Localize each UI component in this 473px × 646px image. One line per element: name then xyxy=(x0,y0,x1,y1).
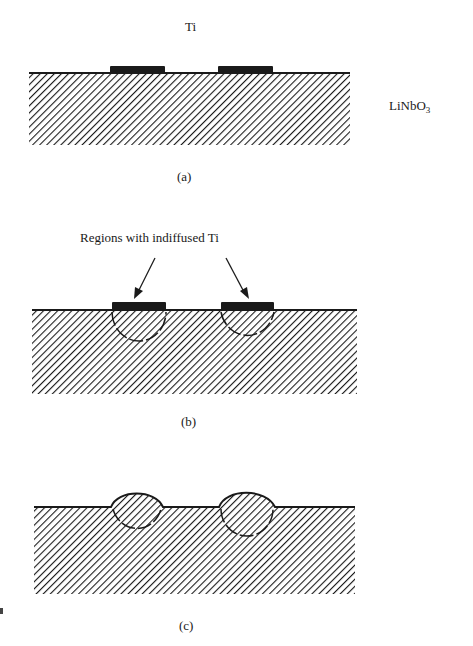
arrow-right xyxy=(226,258,249,299)
panel-b xyxy=(32,258,357,394)
substrate-a xyxy=(29,73,350,145)
substrate-subscript: 3 xyxy=(426,105,431,115)
bulge-c-right xyxy=(219,493,275,507)
substrate-c xyxy=(34,507,355,594)
panel-a xyxy=(29,66,350,145)
arrow-left xyxy=(134,258,155,299)
annotation-indiffused: Regions with indiffused Ti xyxy=(80,230,219,246)
ti-strip-a-right xyxy=(218,66,273,73)
ti-strip-b-left xyxy=(112,302,166,310)
caption-c: (c) xyxy=(179,618,193,634)
substrate-label: LiNbO3 xyxy=(389,98,430,115)
bulge-c-left xyxy=(111,494,163,508)
caption-b: (b) xyxy=(181,414,196,430)
panel-c xyxy=(34,493,355,594)
caption-a: (a) xyxy=(177,169,191,185)
edge-artifact xyxy=(0,608,3,614)
ti-label: Ti xyxy=(185,19,196,35)
substrate-b xyxy=(32,310,357,394)
substrate-formula: LiNbO xyxy=(389,98,426,113)
ti-strip-b-right xyxy=(221,302,274,310)
ti-strip-a-left xyxy=(110,66,165,73)
waveguide-fabrication-diagram xyxy=(0,0,473,646)
